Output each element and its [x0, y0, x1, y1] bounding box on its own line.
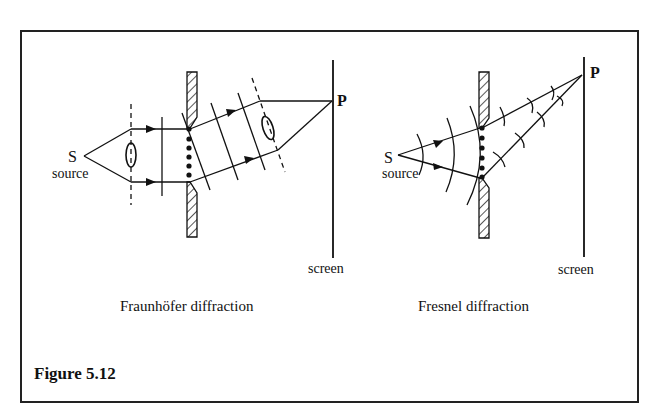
slit-wall-upper	[479, 72, 489, 128]
wavefront-arc	[467, 106, 480, 205]
arrow-icon	[244, 156, 254, 164]
wavefront-arc	[446, 118, 454, 192]
source-label: source	[52, 166, 89, 181]
arrow-icon	[226, 109, 236, 117]
slit-wall-lower	[479, 178, 489, 238]
slit-wall-lower	[187, 182, 197, 237]
screen-label: screen	[558, 262, 594, 277]
lens-2	[260, 115, 277, 141]
arrow-icon	[146, 178, 156, 186]
fraunhofer-caption: Fraunhöfer diffraction	[120, 298, 253, 315]
source-letter: S	[384, 149, 393, 166]
lens-1	[126, 143, 136, 167]
slit-wall-upper	[187, 72, 197, 128]
wavelet-tick	[500, 107, 505, 126]
ray-to-p-lower	[278, 101, 332, 150]
point-p-label: P	[590, 64, 600, 81]
wavefront-tilted	[182, 113, 210, 190]
arrow-icon	[146, 125, 156, 133]
point-p-label: P	[337, 92, 347, 109]
diffraction-diagram: S source P screen	[0, 0, 662, 420]
source-label: source	[382, 166, 419, 181]
ray-diffracted-lower	[190, 150, 278, 182]
wavelet-tick	[551, 86, 554, 100]
fresnel-diagram	[398, 57, 584, 257]
wavelet-tick	[527, 98, 533, 113]
screen-label: screen	[308, 261, 344, 276]
ray-source-lower	[84, 156, 131, 182]
ray-to-p-lower	[482, 75, 582, 178]
arrow-icon	[433, 140, 443, 148]
ray-source-upper	[84, 129, 131, 156]
arrow-icon	[433, 163, 443, 170]
fraunhofer-diagram	[84, 60, 333, 258]
fresnel-caption: Fresnel diffraction	[418, 298, 529, 315]
source-letter: S	[68, 148, 77, 165]
figure-label: Figure 5.12	[34, 364, 116, 384]
wavelet-tick	[557, 96, 563, 106]
ray-to-p-upper	[482, 75, 582, 128]
